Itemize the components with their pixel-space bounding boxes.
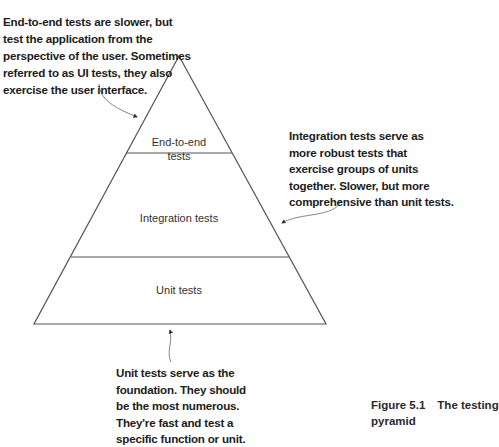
annotation-line: together. Slower, but more [289,178,454,195]
annotation-line: more robust tests that [289,145,454,162]
annotation-line: foundation. They should [116,382,246,399]
annotation-line: perspective of the user. Sometimes [3,47,191,64]
layer-label-unit-line1: Unit tests [156,283,202,297]
annotation-line: Integration tests serve as [289,128,454,145]
annotation-integration: Integration tests serve as more robust t… [289,128,454,211]
figure-title-line1: The testing [437,399,498,411]
layer-label-integration-line1: Integration tests [140,211,218,225]
figure-number: Figure 5.1 [371,399,425,411]
annotation-line: They're fast and test a [116,415,246,432]
annotation-line: referred to as UI tests, they also [3,64,191,81]
layer-label-integration: Integration tests [140,211,218,225]
annotation-line: specific function or unit. [116,431,246,447]
arrow-unit [169,330,171,362]
figure-title-line2: pyramid [371,413,499,429]
layer-label-unit: Unit tests [156,283,202,297]
annotation-line: exercise groups of units [289,161,454,178]
annotation-line: Unit tests serve as the [116,365,246,382]
annotation-line: End-to-end tests are slower, but [3,13,191,30]
annotation-unit: Unit tests serve as the foundation. They… [116,365,246,447]
layer-label-e2e: End-to-end tests [152,135,206,163]
figure-caption: Figure 5.1The testing pyramid [371,397,499,429]
annotation-line: be the most numerous. [116,398,246,415]
annotation-line: exercise the user interface. [3,81,191,98]
annotation-line: test the application from the [3,30,191,47]
annotation-line: comprehensive than unit tests. [289,194,454,211]
annotation-e2e: End-to-end tests are slower, but test th… [3,13,191,98]
layer-label-e2e-line1: End-to-end [152,135,206,149]
layer-label-e2e-line2: tests [152,149,206,163]
